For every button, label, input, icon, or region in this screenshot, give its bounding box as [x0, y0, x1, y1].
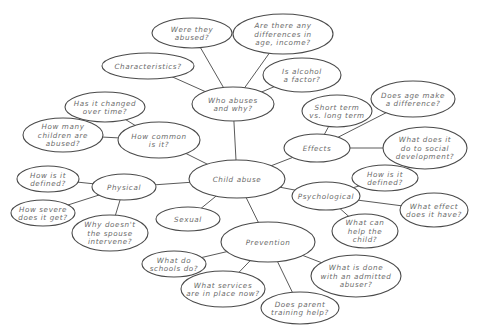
node-label: is it?	[149, 140, 169, 149]
node-label: defined?	[367, 178, 403, 187]
node-physical: Physical	[92, 174, 156, 200]
mind-map-canvas: Child abuseWho abusesand why?Were theyab…	[0, 0, 479, 333]
node-label: schools do?	[150, 264, 198, 273]
node-label: child?	[353, 235, 377, 244]
node-short-vs-long: Short termvs. long term	[302, 95, 372, 127]
node-prevention: Prevention	[221, 222, 315, 262]
node-label: training help?	[271, 308, 329, 317]
node-how-many-children: How manychildren areabused?	[23, 118, 103, 152]
node-admitted-abuser: What is donewith an admittedabuser?	[311, 255, 401, 297]
nodes-layer: Child abuseWho abusesand why?Were theyab…	[11, 14, 468, 324]
node-label: Sexual	[174, 215, 202, 224]
node-social-development: What does itdo to socialdevelopment?	[383, 127, 467, 169]
node-label: Characteristics?	[114, 62, 181, 71]
node-sexual: Sexual	[156, 207, 220, 231]
node-changed-over-time: Has it changedover time?	[65, 92, 145, 122]
node-how-severe: How severedoes it get?	[11, 200, 75, 226]
node-label: over time?	[83, 107, 127, 116]
node-label: abuser?	[340, 280, 373, 289]
node-age-difference: Does age makea difference?	[371, 81, 455, 117]
node-label: Child abuse	[213, 175, 262, 184]
node-spouse-intervene: Why doesn'tthe spouseintervene?	[72, 215, 148, 251]
node-services: What servicesare in place now?	[181, 271, 265, 307]
node-how-common: How commonis it?	[118, 122, 200, 158]
node-effects: Effects	[284, 134, 350, 162]
mind-map: Child abuseWho abusesand why?Were theyab…	[0, 0, 479, 333]
node-label: does it get?	[18, 213, 67, 222]
node-label: Effects	[303, 144, 332, 153]
node-physical-defined: How is itdefined?	[17, 166, 79, 192]
node-label: Psychological	[298, 192, 354, 201]
node-what-effect: What effectdoes it have?	[400, 193, 468, 227]
node-label: defined?	[30, 179, 66, 188]
node-help-child: What canhelp thechild?	[332, 214, 398, 248]
node-label: development?	[396, 152, 454, 161]
node-label: are in place now?	[186, 289, 259, 298]
node-alcohol: Is alcohola factor?	[263, 58, 341, 92]
node-label: Physical	[107, 183, 141, 192]
node-label: Prevention	[246, 238, 291, 247]
node-label: a factor?	[284, 75, 321, 84]
node-label: does it have?	[406, 210, 462, 219]
node-were-they-abused: Were theyabused?	[152, 18, 232, 48]
node-label: abused?	[46, 139, 80, 148]
node-child-abuse: Child abuse	[189, 160, 285, 198]
node-who-abuses: Who abusesand why?	[192, 87, 274, 121]
node-differences: Are there anydifferences inage, income?	[233, 14, 333, 54]
node-label: abused?	[175, 33, 209, 42]
node-schools: What doschools do?	[142, 251, 206, 277]
node-label: a difference?	[386, 99, 441, 108]
node-characteristics: Characteristics?	[102, 53, 194, 79]
node-label: intervene?	[88, 237, 132, 246]
node-label: age, income?	[255, 38, 310, 47]
node-label: vs. long term	[309, 111, 364, 120]
node-label: and why?	[213, 104, 252, 113]
node-psychological: Psychological	[292, 182, 360, 210]
node-parent-training: Does parenttraining help?	[261, 292, 339, 324]
node-psych-defined: How is itdefined?	[352, 165, 418, 191]
